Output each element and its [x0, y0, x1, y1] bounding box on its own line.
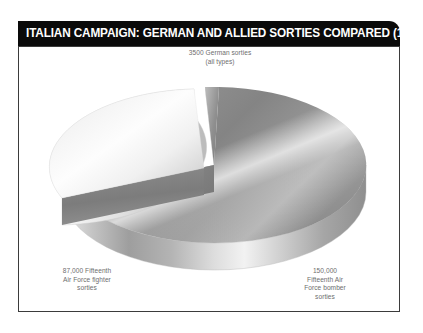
chart-figure: ITALIAN CAMPAIGN: GERMAN AND ALLIED SORT…: [0, 0, 423, 333]
callout-german-sorties: 3500 German sorties (all types): [150, 49, 290, 66]
callout-fighter-sorties: 87,000 Fifteenth Air Force fighter sorti…: [22, 267, 152, 293]
callout-bomber-sorties: 150,000 Fifteenth Air Force bomber sorti…: [265, 267, 385, 301]
chart-title-bar: ITALIAN CAMPAIGN: GERMAN AND ALLIED SORT…: [18, 21, 400, 46]
chart-title: ITALIAN CAMPAIGN: GERMAN AND ALLIED SORT…: [26, 27, 423, 39]
